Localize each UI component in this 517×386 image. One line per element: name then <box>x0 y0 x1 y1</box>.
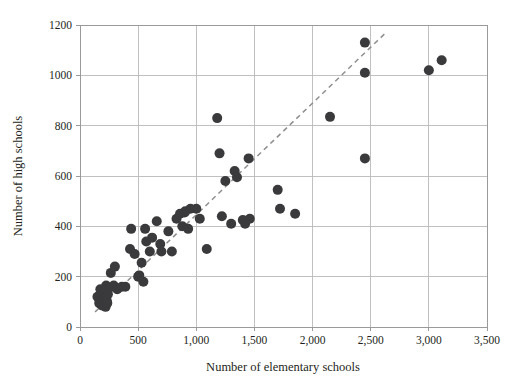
y-tick-label: 600 <box>55 170 73 182</box>
data-point <box>217 211 227 221</box>
y-tick-label: 800 <box>55 120 73 132</box>
x-tick-label: 2,500 <box>358 334 384 347</box>
data-point <box>226 219 236 229</box>
data-point <box>152 216 162 226</box>
y-tick-label: 0 <box>66 321 72 333</box>
y-tick-label: 1000 <box>49 69 72 81</box>
data-points <box>92 38 446 312</box>
data-point <box>140 224 150 234</box>
data-point <box>220 176 230 186</box>
x-tick-label: 3,000 <box>416 334 442 347</box>
data-point <box>360 68 370 78</box>
y-tick-label: 200 <box>55 271 73 283</box>
x-tick-label: 3,500 <box>474 334 500 347</box>
y-tick-label: 400 <box>55 220 73 232</box>
data-point <box>183 224 193 234</box>
data-point <box>110 262 120 272</box>
data-point <box>244 153 254 163</box>
data-point <box>275 204 285 214</box>
data-point <box>290 209 300 219</box>
data-point <box>195 214 205 224</box>
data-point <box>138 277 148 287</box>
x-tick-labels: 05001,0001,5002,0002,5003,0003,500 <box>77 334 500 347</box>
data-point <box>273 185 283 195</box>
data-point <box>245 214 255 224</box>
data-point <box>437 55 447 65</box>
data-point <box>360 153 370 163</box>
y-tick-label: 1200 <box>49 19 72 31</box>
x-tick-label: 1,500 <box>241 334 267 347</box>
data-point <box>102 298 112 308</box>
y-axis-title: Number of high schools <box>11 116 25 237</box>
y-tick-labels: 020040060080010001200 <box>49 19 72 333</box>
data-point <box>147 233 157 243</box>
x-tick-label: 0 <box>77 334 83 346</box>
data-point <box>163 226 173 236</box>
data-point <box>325 112 335 122</box>
chart-canvas: 05001,0001,5002,0002,5003,0003,500 02004… <box>0 0 517 386</box>
x-tick-label: 1,000 <box>183 334 209 347</box>
data-point <box>156 247 166 257</box>
data-point <box>167 247 177 257</box>
data-point <box>130 249 140 259</box>
data-point <box>191 204 201 214</box>
data-point <box>145 247 155 257</box>
data-point <box>215 148 225 158</box>
data-point <box>137 258 147 268</box>
scatter-chart: 05001,0001,5002,0002,5003,0003,500 02004… <box>0 0 517 386</box>
x-axis-title: Number of elementary schools <box>206 360 360 374</box>
data-point <box>202 244 212 254</box>
data-point <box>120 282 130 292</box>
data-point <box>232 172 242 182</box>
data-point <box>360 38 370 48</box>
x-tick-label: 2,000 <box>300 334 326 347</box>
data-point <box>126 224 136 234</box>
data-point <box>212 113 222 123</box>
x-tick-label: 500 <box>130 334 148 346</box>
data-point <box>424 65 434 75</box>
